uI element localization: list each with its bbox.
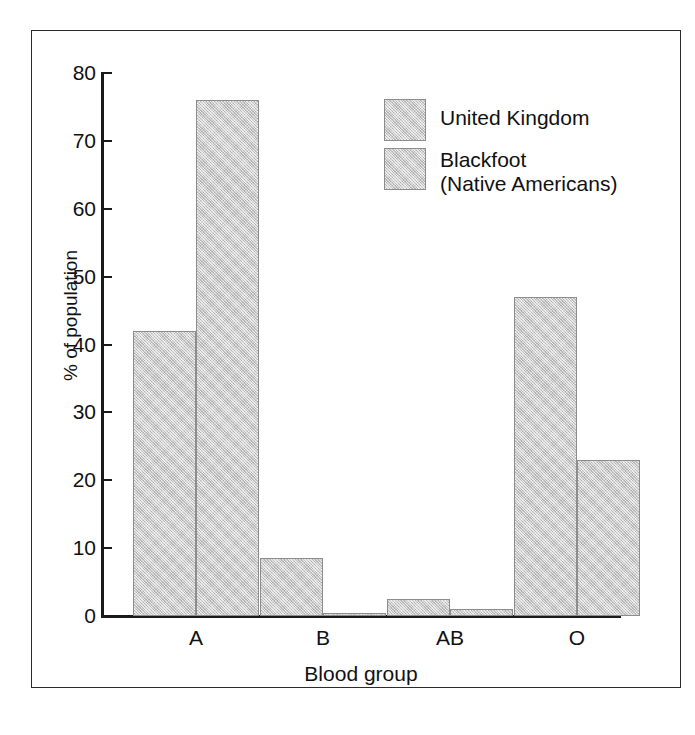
legend-label: Blackfoot (Native Americans) bbox=[440, 148, 617, 196]
y-axis-tick-label-text: 80 bbox=[50, 62, 96, 83]
bar bbox=[514, 297, 577, 616]
y-axis-tick-label-text: 0 bbox=[50, 605, 96, 626]
legend-swatch-icon bbox=[384, 99, 426, 141]
y-axis-tick-label: 80 bbox=[32, 62, 96, 83]
x-axis-category-label: AB bbox=[410, 627, 490, 648]
bar bbox=[577, 460, 640, 616]
y-axis-tick bbox=[104, 208, 112, 210]
legend-item-blackfoot: Blackfoot (Native Americans) bbox=[384, 148, 674, 196]
y-axis-tick-label: 0 bbox=[32, 605, 96, 626]
x-axis-title: Blood group bbox=[101, 663, 621, 684]
y-axis-tick bbox=[104, 479, 112, 481]
legend-swatch-icon bbox=[384, 148, 426, 190]
x-axis-category-label: O bbox=[537, 627, 617, 648]
y-axis-tick bbox=[104, 72, 112, 74]
bar bbox=[387, 599, 450, 616]
plot-area: 80706050403020100 % of population ABABO … bbox=[32, 31, 682, 689]
bar bbox=[133, 331, 196, 616]
bar bbox=[260, 558, 323, 616]
y-axis-tick bbox=[104, 276, 112, 278]
bar bbox=[323, 613, 386, 616]
y-axis-tick-label: 70 bbox=[32, 130, 96, 151]
y-axis-tick-label-text: 10 bbox=[50, 537, 96, 558]
y-axis-tick bbox=[104, 615, 112, 617]
chart-legend: United Kingdom Blackfoot (Native America… bbox=[384, 99, 674, 203]
legend-item-united-kingdom: United Kingdom bbox=[384, 99, 674, 141]
legend-label: United Kingdom bbox=[440, 99, 589, 130]
y-axis-tick-label: 10 bbox=[32, 537, 96, 558]
figure-frame: 80706050403020100 % of population ABABO … bbox=[31, 30, 681, 688]
x-axis-category-label: B bbox=[283, 627, 363, 648]
bar bbox=[450, 609, 513, 616]
y-axis-tick bbox=[104, 140, 112, 142]
y-axis-tick bbox=[104, 344, 112, 346]
y-axis-tick-label-text: 20 bbox=[50, 469, 96, 490]
y-axis-tick bbox=[104, 547, 112, 549]
y-axis-tick-label-text: 70 bbox=[50, 130, 96, 151]
x-axis-category-label: A bbox=[156, 627, 236, 648]
bar bbox=[196, 100, 259, 616]
y-axis-tick bbox=[104, 411, 112, 413]
y-axis-tick-label: 20 bbox=[32, 469, 96, 490]
y-axis-title: % of population bbox=[61, 216, 80, 416]
